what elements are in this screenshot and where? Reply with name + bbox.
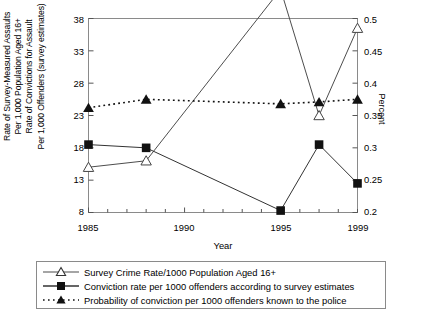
data-point-marker xyxy=(314,111,324,120)
data-point-marker xyxy=(84,140,93,149)
data-point-marker xyxy=(142,144,151,153)
legend-label: Probability of conviction per 1000 offen… xyxy=(84,295,381,306)
data-point-marker xyxy=(276,206,285,215)
data-series xyxy=(83,0,363,215)
legend-label: Conviction rate per 1000 offenders accor… xyxy=(84,281,381,292)
legend-key-open-triangle-icon xyxy=(41,265,81,279)
data-point-marker xyxy=(352,23,362,32)
legend-key-filled-triangle-dotted-icon xyxy=(41,293,81,307)
data-point-marker xyxy=(83,103,94,112)
chart-legend: Survey Crime Rate/1000 Population Aged 1… xyxy=(36,261,386,309)
data-point-marker xyxy=(353,179,362,188)
series-line xyxy=(89,145,358,211)
legend-item-survey-crime-rate: Survey Crime Rate/1000 Population Aged 1… xyxy=(41,265,381,279)
legend-key-filled-square-icon xyxy=(41,279,81,293)
legend-label: Survey Crime Rate/1000 Population Aged 1… xyxy=(84,267,381,278)
data-point-marker xyxy=(315,140,324,149)
data-point-marker xyxy=(141,156,151,165)
legend-item-conviction-rate: Conviction rate per 1000 offenders accor… xyxy=(41,279,381,293)
chart-figure: Rate of Survey-Measured Assaults Per 1,0… xyxy=(0,0,422,318)
data-point-marker xyxy=(141,94,152,103)
legend-item-probability-conviction: Probability of conviction per 1000 offen… xyxy=(41,293,381,307)
